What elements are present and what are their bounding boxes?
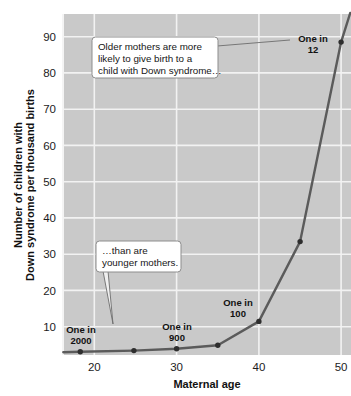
annotation-900-line2: 900 xyxy=(169,332,185,343)
callout-younger-mothers-line1: …than are xyxy=(102,245,148,256)
x-tick-label-30: 30 xyxy=(170,361,183,373)
annotation-2000-line2: 2000 xyxy=(70,335,91,346)
y-tick-label-80: 80 xyxy=(43,67,56,79)
callout-younger-mothers: …than are younger mothers. xyxy=(96,241,181,272)
x-tick-label-40: 40 xyxy=(253,361,266,373)
annotation-900-line1: One in xyxy=(162,321,192,332)
y-axis-title-line1: Number of children with xyxy=(12,122,24,248)
y-tick-label-20: 20 xyxy=(43,285,56,297)
point-annotation-2000: One in 2000 xyxy=(66,324,96,346)
y-tick-label-30: 30 xyxy=(43,248,56,260)
y-tick-label-70: 70 xyxy=(43,103,56,115)
annotation-100-line1: One in xyxy=(223,297,253,308)
y-tick-labels: 10 20 30 40 50 60 70 80 90 xyxy=(43,31,56,333)
data-point-18 xyxy=(78,349,83,354)
annotation-2000-line1: One in xyxy=(66,324,96,335)
y-tick-label-50: 50 xyxy=(43,176,56,188)
y-tick-label-40: 40 xyxy=(43,212,56,224)
callout-older-mothers-line2: likely to give birth to a xyxy=(98,53,193,64)
y-tick-label-60: 60 xyxy=(43,140,56,152)
chart-figure: 10 20 30 40 50 60 70 80 90 20 30 40 50 M… xyxy=(0,0,351,396)
annotation-12-line1: One in xyxy=(298,33,328,44)
data-point-50 xyxy=(338,39,343,44)
callout-older-mothers: Older mothers are more likely to give bi… xyxy=(92,37,222,78)
x-tick-label-20: 20 xyxy=(88,361,101,373)
callout-older-mothers-line3: child with Down syndrome… xyxy=(98,65,222,76)
annotation-100-line2: 100 xyxy=(230,308,246,319)
x-tick-label-50: 50 xyxy=(335,361,348,373)
down-syndrome-maternal-age-chart: 10 20 30 40 50 60 70 80 90 20 30 40 50 M… xyxy=(0,0,351,396)
x-tick-labels: 20 30 40 50 xyxy=(88,361,348,373)
callout-older-mothers-line1: Older mothers are more xyxy=(98,41,203,52)
data-point-40 xyxy=(256,319,261,324)
data-point-30 xyxy=(174,346,179,351)
data-point-45 xyxy=(297,239,302,244)
callout-younger-mothers-line2: younger mothers. xyxy=(102,257,178,268)
y-tick-label-10: 10 xyxy=(43,321,56,333)
y-axis-title-line2: Down syndrome per thousand births xyxy=(24,89,36,281)
data-point-25 xyxy=(131,348,136,353)
x-axis-title: Maternal age xyxy=(173,378,240,390)
annotation-12-line2: 12 xyxy=(308,44,319,55)
data-point-35 xyxy=(215,343,220,348)
y-tick-label-90: 90 xyxy=(43,31,56,43)
